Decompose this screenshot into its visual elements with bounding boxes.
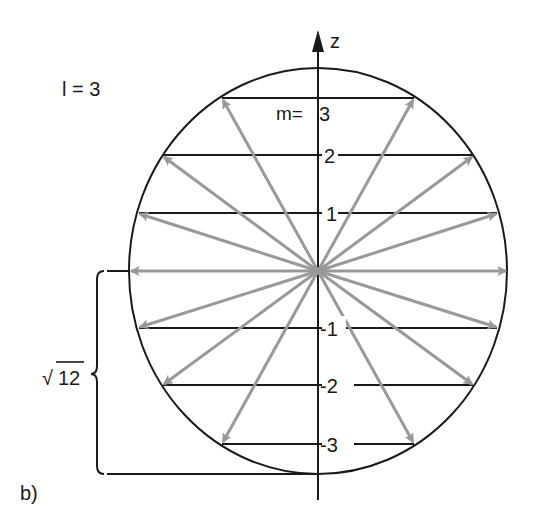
panel-label: b) [20,482,38,504]
m-label-neg2: -2 [320,375,338,397]
angular-momentum-diagram: z l = 3 m= 3 2 1 -1 -2 -3 √ 12 b) [0,0,536,529]
quantum-number-label: l = 3 [62,78,100,100]
m-label-3: 3 [319,103,330,125]
curly-brace [91,271,104,474]
magnitude-radical-sign: √ [42,367,53,389]
z-axis-arrow-icon [312,30,324,52]
m-label-1: 1 [326,203,337,225]
axis-label-z: z [330,30,340,52]
m-label-neg1: -1 [320,318,338,340]
m-label-2: 2 [324,145,335,167]
magnitude-label-value: 12 [58,367,80,389]
m-label-neg3: -3 [320,434,338,456]
m-prefix-label: m= [276,103,303,124]
